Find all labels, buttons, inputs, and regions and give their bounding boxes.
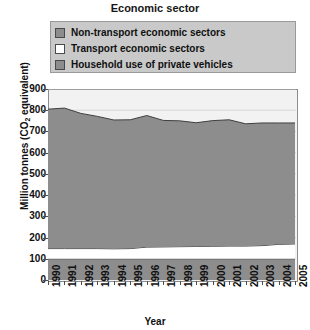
x-tick-label-1990: 1990 [52, 247, 62, 287]
x-tick-mark-1996 [147, 281, 148, 285]
x-tick-mark-2001 [229, 281, 230, 285]
x-tick-label-2005: 2005 [299, 247, 309, 287]
x-tick-mark-2004 [279, 281, 280, 285]
x-tick-mark-1997 [163, 281, 164, 285]
x-tick-label-1999: 1999 [200, 247, 210, 287]
x-tick-mark-1999 [196, 281, 197, 285]
x-tick-label-2000: 2000 [217, 247, 227, 287]
x-tick-label-1996: 1996 [151, 247, 161, 287]
x-tick-label-1994: 1994 [118, 247, 128, 287]
x-tick-mark-1994 [114, 281, 115, 285]
x-tick-label-1992: 1992 [85, 247, 95, 287]
x-tick-label-2003: 2003 [266, 247, 276, 287]
x-tick-label-2004: 2004 [283, 247, 293, 287]
x-tick-mark-2000 [213, 281, 214, 285]
x-tick-label-1998: 1998 [184, 247, 194, 287]
x-tick-mark-1995 [130, 281, 131, 285]
x-tick-label-2001: 2001 [233, 247, 243, 287]
x-tick-label-1991: 1991 [68, 247, 78, 287]
x-tick-mark-1998 [180, 281, 181, 285]
x-tick-mark-1993 [97, 281, 98, 285]
chart-container: Economic sector Non-transport economic s… [0, 0, 310, 330]
x-tick-label-1995: 1995 [134, 247, 144, 287]
x-tick-label-1997: 1997 [167, 247, 177, 287]
x-tick-label-1993: 1993 [101, 247, 111, 287]
x-axis-title: Year [0, 316, 310, 327]
x-tick-label-2002: 2002 [250, 247, 260, 287]
x-tick-mark-2002 [246, 281, 247, 285]
x-tick-mark-1991 [64, 281, 65, 285]
x-tick-mark-1992 [81, 281, 82, 285]
x-tick-mark-2003 [262, 281, 263, 285]
x-tick-mark-2005 [295, 281, 296, 285]
x-tick-mark-1990 [48, 281, 49, 285]
x-axis: 1990199119921993199419951996199719981999… [0, 0, 310, 330]
